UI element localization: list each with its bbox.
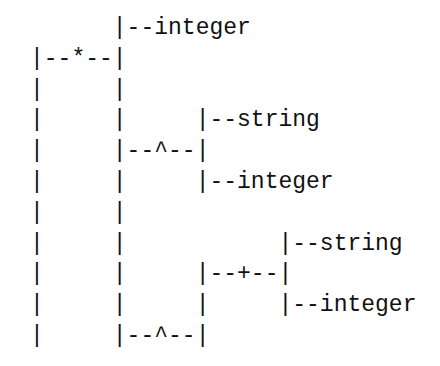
tree-line-star-operator: |--*--| (30, 44, 416, 75)
tree-line-integer-leaf: |--integer (30, 13, 416, 44)
tree-line-string-leaf: | | |--string (30, 229, 416, 260)
tree-line-plus-operator: | | |--+--| (30, 259, 416, 290)
tree-line-caret-operator: | |--^--| (30, 321, 416, 352)
tree-line-integer-leaf: | | |--integer (30, 167, 416, 198)
tree-line-caret-operator: | |--^--| (30, 136, 416, 167)
tree-line-string-leaf: | | |--string (30, 105, 416, 136)
tree-line-connector: | | (30, 198, 416, 229)
tree-line-connector: | | (30, 75, 416, 106)
tree-line-integer-leaf: | | | |--integer (30, 290, 416, 321)
ascii-tree-diagram: |--integer|--*--|| || | |--string| |--^-… (30, 13, 416, 352)
